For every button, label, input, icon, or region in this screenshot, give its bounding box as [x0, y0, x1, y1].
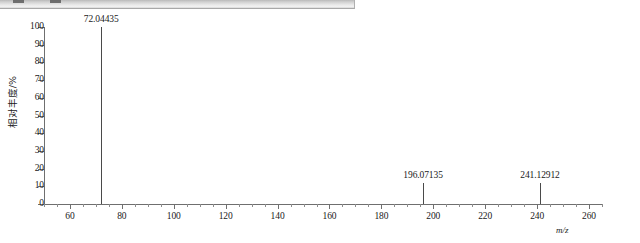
x-axis-minor-tick: [304, 204, 305, 207]
peak-line: [101, 27, 102, 204]
x-axis-minor-tick: [161, 204, 162, 207]
peak-label: 72.04435: [46, 14, 156, 24]
y-axis-tick-label: 100: [10, 22, 44, 32]
x-axis-minor-tick: [252, 204, 253, 207]
x-axis-minor-tick: [200, 204, 201, 207]
x-axis-minor-tick: [472, 204, 473, 207]
x-axis-minor-tick: [187, 204, 188, 207]
x-axis-minor-tick: [394, 204, 395, 207]
x-axis-tick-label: 260: [569, 211, 609, 221]
x-axis-major-tick: [122, 204, 123, 209]
x-axis-minor-tick: [83, 204, 84, 207]
toolbar-mark-icon: [50, 0, 61, 3]
x-axis-minor-tick: [498, 204, 499, 207]
x-axis-minor-tick: [602, 204, 603, 207]
toolbar-mark-icon: [13, 0, 24, 3]
x-axis-minor-tick: [109, 204, 110, 207]
x-axis-minor-tick: [239, 204, 240, 207]
y-axis-tick-label: 20: [10, 164, 44, 174]
x-axis-tick-label: 80: [102, 211, 142, 221]
x-axis-minor-tick: [550, 204, 551, 207]
y-axis-line: [44, 27, 45, 204]
peak-line: [423, 183, 424, 204]
x-axis-minor-tick: [420, 204, 421, 207]
x-axis-major-tick: [70, 204, 71, 209]
x-axis-minor-tick: [317, 204, 318, 207]
x-axis-title: m/z: [556, 225, 569, 235]
peak-line: [540, 183, 541, 204]
x-axis-major-tick: [589, 204, 590, 209]
x-axis-minor-tick: [368, 204, 369, 207]
cut-off-toolbar-strip[interactable]: [0, 0, 355, 9]
y-axis-tick-label: 0: [10, 199, 44, 209]
x-axis-minor-tick: [44, 204, 45, 207]
x-axis-minor-tick: [407, 204, 408, 207]
x-axis-major-tick: [226, 204, 227, 209]
x-axis-minor-tick: [96, 204, 97, 207]
x-axis-tick-label: 180: [361, 211, 401, 221]
x-axis-tick-label: 160: [309, 211, 349, 221]
x-axis-tick-label: 60: [50, 211, 90, 221]
x-axis-tick-label: 120: [206, 211, 246, 221]
x-axis-tick-label: 100: [154, 211, 194, 221]
x-axis-major-tick: [329, 204, 330, 209]
x-axis-major-tick: [278, 204, 279, 209]
x-axis-major-tick: [433, 204, 434, 209]
x-axis-minor-tick: [355, 204, 356, 207]
x-axis-minor-tick: [265, 204, 266, 207]
x-axis-minor-tick: [342, 204, 343, 207]
x-axis-minor-tick: [135, 204, 136, 207]
x-axis-minor-tick: [446, 204, 447, 207]
x-axis-minor-tick: [459, 204, 460, 207]
y-axis-tick-label: 90: [10, 40, 44, 50]
x-axis-tick-label: 220: [465, 211, 505, 221]
x-axis-minor-tick: [576, 204, 577, 207]
x-axis-major-tick: [537, 204, 538, 209]
x-axis-minor-tick: [213, 204, 214, 207]
x-axis-major-tick: [174, 204, 175, 209]
peak-label: 196.07135: [368, 170, 478, 180]
x-axis-minor-tick: [524, 204, 525, 207]
peak-label: 241.12912: [485, 170, 595, 180]
x-axis-minor-tick: [511, 204, 512, 207]
x-axis-line: [44, 204, 602, 205]
y-axis-tick-label: 30: [10, 146, 44, 156]
mass-spectrum-chart: 0102030405060708090100 相对丰度/% 6080100120…: [0, 9, 640, 243]
x-axis-tick-label: 240: [517, 211, 557, 221]
x-axis-minor-tick: [291, 204, 292, 207]
x-axis-tick-label: 200: [413, 211, 453, 221]
x-axis-minor-tick: [563, 204, 564, 207]
x-axis-minor-tick: [148, 204, 149, 207]
x-axis-minor-tick: [57, 204, 58, 207]
x-axis-major-tick: [485, 204, 486, 209]
y-axis-title: 相对丰度/%: [8, 62, 18, 142]
x-axis-tick-label: 140: [258, 211, 298, 221]
x-axis-major-tick: [381, 204, 382, 209]
y-axis-tick-label: 10: [10, 181, 44, 191]
